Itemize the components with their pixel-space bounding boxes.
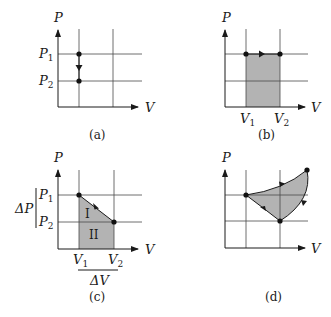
state-point-2 — [111, 219, 116, 224]
caption-a: (a) — [89, 128, 106, 142]
p-axis-label: P — [221, 150, 231, 165]
p-axis-label: P — [53, 150, 63, 165]
state-point-1 — [243, 51, 248, 56]
v-axis-label: V — [145, 242, 156, 257]
caption-c: (c) — [89, 290, 105, 304]
p2-label: P2 — [38, 214, 53, 231]
panel-c: I II P V P1 P2 V1 V2 ΔP ΔV (c) — [14, 150, 156, 304]
cycle-arrow-right-icon — [301, 200, 307, 206]
region-2-label: II — [89, 228, 99, 242]
pv-diagrams-figure: P V P1 P2 (a) P V V1 V2 (b) I — [0, 0, 331, 317]
v-axis-label: V — [311, 100, 322, 115]
panel-a: P V P1 P2 (a) — [38, 10, 156, 142]
region-1-label: I — [85, 207, 90, 221]
panel-b: P V V1 V2 (b) — [221, 10, 322, 142]
cycle-work-area — [246, 170, 308, 221]
caption-d: (d) — [265, 290, 282, 304]
v1-label: V1 — [240, 111, 255, 128]
p-axis-label: P — [53, 10, 63, 25]
p1-label: P1 — [38, 187, 53, 204]
p1-label: P1 — [38, 46, 53, 63]
state-point-top-right — [304, 167, 309, 172]
v-axis-label: V — [311, 241, 322, 256]
v2-label: V2 — [108, 252, 123, 269]
delta-v-label: ΔV — [89, 273, 110, 288]
panel-d: P V (d) — [221, 150, 322, 304]
state-point-bottom — [277, 218, 282, 223]
v2-label: V2 — [274, 111, 289, 128]
work-area — [246, 54, 280, 107]
state-point-2 — [76, 78, 81, 83]
state-point-1 — [76, 192, 81, 197]
v-axis-label: V — [145, 100, 156, 115]
p-axis-label: P — [221, 10, 231, 25]
delta-p-label: ΔP — [14, 201, 33, 216]
state-point-left — [243, 192, 248, 197]
v1-label: V1 — [73, 252, 88, 269]
down-arrow-icon — [76, 65, 83, 71]
state-point-2 — [277, 51, 282, 56]
caption-b: (b) — [258, 128, 275, 142]
state-point-1 — [76, 51, 81, 56]
p2-label: P2 — [38, 73, 53, 90]
